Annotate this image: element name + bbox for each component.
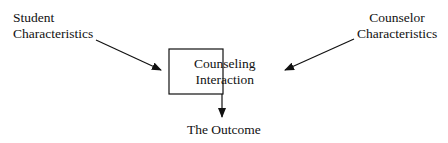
interaction-text: Counseling Interaction <box>194 56 256 88</box>
counselor-arrow <box>285 39 354 70</box>
counselor-label: Counselor Characteristics <box>357 10 437 42</box>
outcome-label: The Outcome <box>187 122 261 138</box>
student-label: Student Characteristics <box>13 10 93 42</box>
student-arrow <box>96 40 161 70</box>
